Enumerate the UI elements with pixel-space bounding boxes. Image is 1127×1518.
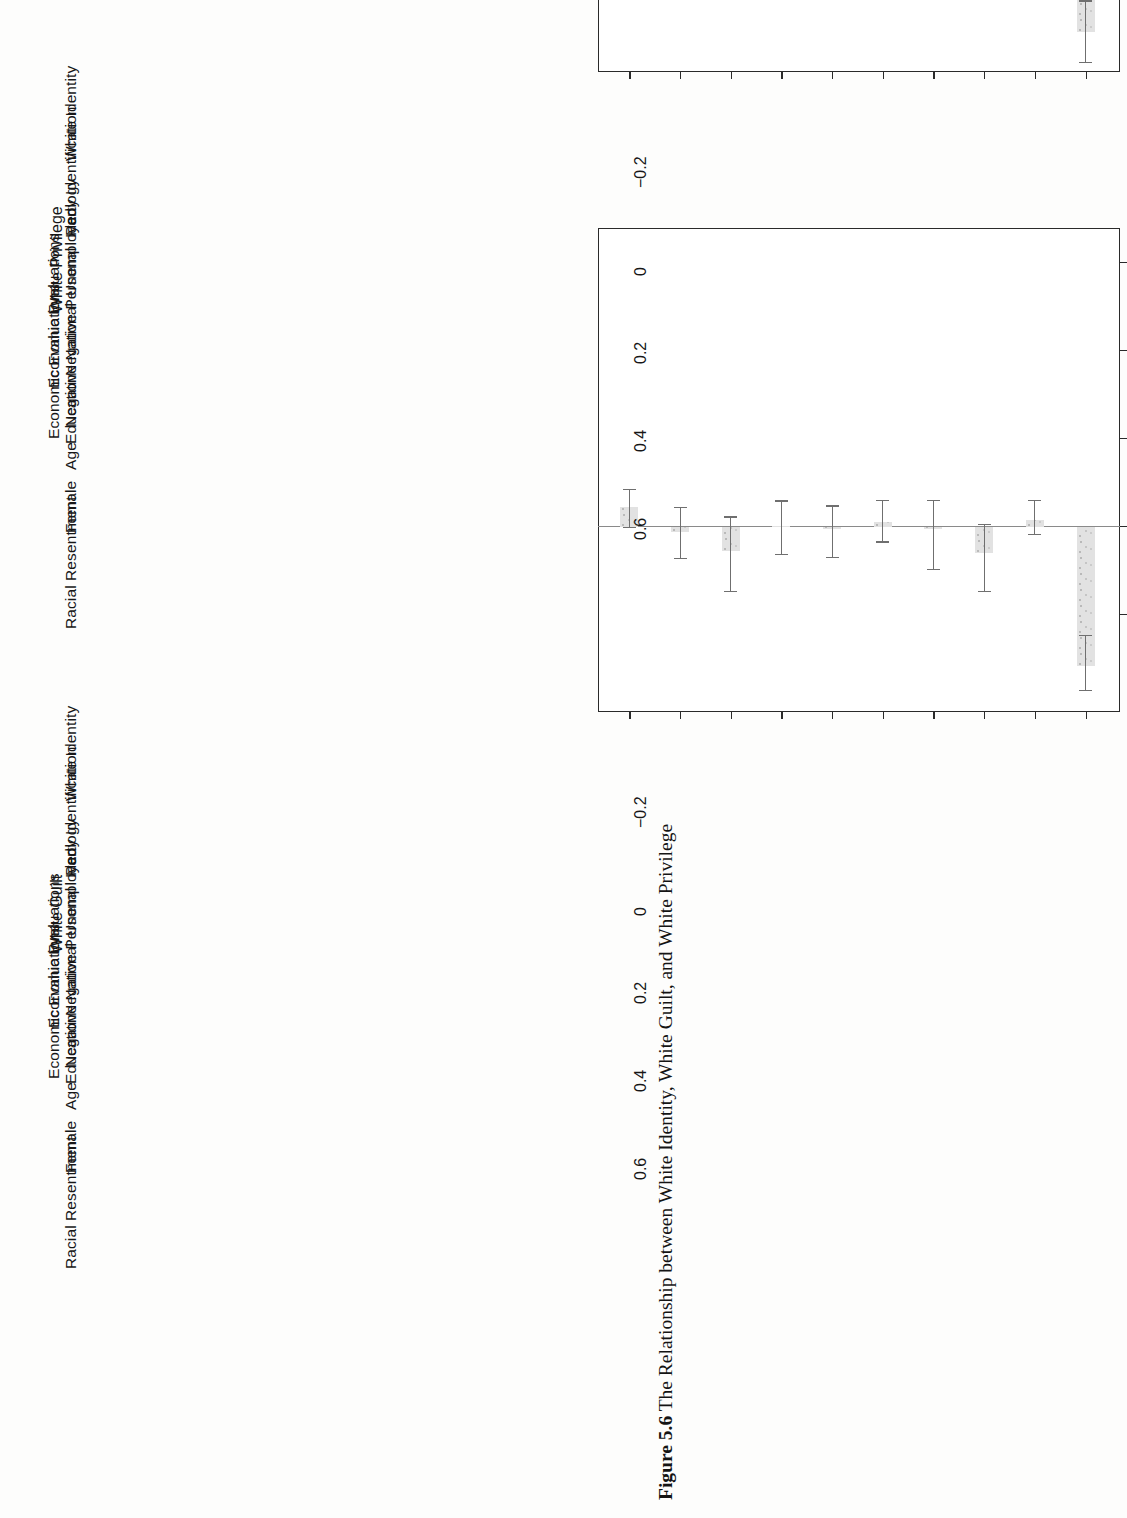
value-axis-tick bbox=[1120, 438, 1127, 439]
value-tick-label: 0.4 bbox=[632, 1070, 650, 1092]
category-axis-tick bbox=[984, 72, 985, 79]
category-axis-tick bbox=[731, 712, 732, 719]
value-tick-label: 0.6 bbox=[632, 518, 650, 540]
category-axis-tick bbox=[1086, 712, 1087, 719]
error-bar-cap bbox=[724, 516, 737, 517]
category-axis-tick bbox=[933, 712, 934, 719]
value-tick-label: 0.6 bbox=[632, 1158, 650, 1180]
category-label: Education bbox=[62, 1015, 80, 1085]
category-label: Racial Resentment bbox=[62, 497, 80, 630]
category-axis-tick bbox=[680, 72, 681, 79]
error-bar-cap bbox=[775, 554, 788, 555]
value-tick-label: 0 bbox=[632, 907, 650, 916]
error-bar-cap bbox=[623, 489, 636, 490]
error-bar-line bbox=[1085, 2, 1086, 64]
category-axis-tick bbox=[984, 712, 985, 719]
error-bar-cap bbox=[674, 507, 687, 508]
category-axis-tick bbox=[832, 72, 833, 79]
error-bar-cap bbox=[1079, 690, 1092, 691]
error-bar-cap bbox=[826, 505, 839, 506]
error-bar-line bbox=[1085, 636, 1086, 691]
error-bar-line bbox=[984, 525, 985, 592]
value-tick-label: 0 bbox=[632, 267, 650, 276]
panel-title: White Guilt bbox=[48, 875, 66, 953]
category-axis-tick bbox=[933, 72, 934, 79]
category-axis-tick bbox=[1035, 712, 1036, 719]
error-bar-line bbox=[1034, 501, 1035, 535]
category-axis-tick bbox=[781, 712, 782, 719]
panel-white-privilege bbox=[598, 0, 1120, 72]
error-bar-cap bbox=[826, 557, 839, 558]
error-bar-cap bbox=[927, 569, 940, 570]
value-tick-label: −0.2 bbox=[632, 156, 650, 188]
error-bar-cap bbox=[1079, 62, 1092, 63]
plot-frame-white-privilege bbox=[598, 0, 1120, 72]
value-axis-tick bbox=[1120, 350, 1127, 351]
error-bar-cap bbox=[724, 591, 737, 592]
value-tick-label: −0.2 bbox=[632, 796, 650, 828]
error-bar-cap bbox=[1028, 534, 1041, 535]
error-bar-cap bbox=[1028, 500, 1041, 501]
error-bar-line bbox=[933, 501, 934, 571]
category-axis-tick bbox=[680, 712, 681, 719]
caption-label: Figure 5.6 bbox=[655, 1416, 676, 1500]
category-axis-tick bbox=[629, 72, 630, 79]
category-axis-tick bbox=[832, 712, 833, 719]
category-axis-tick bbox=[1086, 72, 1087, 79]
error-bar-cap bbox=[1079, 635, 1092, 636]
error-bar-line bbox=[882, 501, 883, 543]
category-label: Racial Resentment bbox=[62, 1137, 80, 1270]
error-bar-cap bbox=[1079, 0, 1092, 1]
panel-white-guilt bbox=[598, 228, 1120, 712]
caption-text: The Relationship between White Identity,… bbox=[655, 824, 676, 1411]
error-bar-line bbox=[629, 490, 630, 528]
value-axis-tick bbox=[1120, 262, 1127, 263]
error-bar-cap bbox=[775, 500, 788, 501]
category-axis-tick bbox=[629, 712, 630, 719]
value-axis-tick bbox=[1120, 614, 1127, 615]
value-tick-label: 0.4 bbox=[632, 430, 650, 452]
error-bar-cap bbox=[876, 541, 889, 542]
error-bar-line bbox=[781, 502, 782, 556]
error-bar-cap bbox=[978, 524, 991, 525]
error-bar-line bbox=[680, 508, 681, 559]
figure-caption: Figure 5.6 The Relationship between Whit… bbox=[655, 824, 677, 1500]
error-bar-cap bbox=[876, 500, 889, 501]
category-axis-tick bbox=[781, 72, 782, 79]
error-bar-cap bbox=[927, 500, 940, 501]
category-label: Age bbox=[62, 443, 80, 471]
value-tick-label: 0.2 bbox=[632, 342, 650, 364]
error-bar-line bbox=[832, 507, 833, 558]
category-axis-tick bbox=[883, 712, 884, 719]
caption-spacer bbox=[655, 1411, 676, 1416]
category-axis-tick bbox=[1035, 72, 1036, 79]
error-bar-line bbox=[730, 518, 731, 593]
plot-frame-white-guilt bbox=[598, 228, 1120, 712]
category-label: Age bbox=[62, 1083, 80, 1111]
value-tick-label: 0.2 bbox=[632, 982, 650, 1004]
panel-title: White Privilege bbox=[48, 206, 66, 313]
category-axis-tick bbox=[883, 72, 884, 79]
error-bar-cap bbox=[978, 591, 991, 592]
error-bar-cap bbox=[674, 558, 687, 559]
category-axis-tick bbox=[731, 72, 732, 79]
value-axis-tick bbox=[1120, 526, 1127, 527]
category-label: Education bbox=[62, 375, 80, 445]
